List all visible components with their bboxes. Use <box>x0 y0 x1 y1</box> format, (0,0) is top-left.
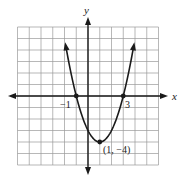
key-point-marker <box>121 94 126 99</box>
x-axis-left-arrow-icon <box>8 93 16 99</box>
key-point-marker <box>74 94 79 99</box>
key-point-marker <box>97 140 102 145</box>
y-axis-label: y <box>83 4 89 16</box>
vertex-label: (1, −4) <box>103 144 130 156</box>
root-left-label: −1 <box>60 99 71 110</box>
parabola-graph: y x −1 3 (1, −4) <box>0 0 182 180</box>
y-axis-up-arrow-icon <box>85 17 91 25</box>
axes <box>8 17 168 175</box>
x-axis-right-arrow-icon <box>160 93 168 99</box>
x-axis-label: x <box>171 90 177 102</box>
root-right-label: 3 <box>125 99 130 110</box>
y-axis-down-arrow-icon <box>85 167 91 175</box>
